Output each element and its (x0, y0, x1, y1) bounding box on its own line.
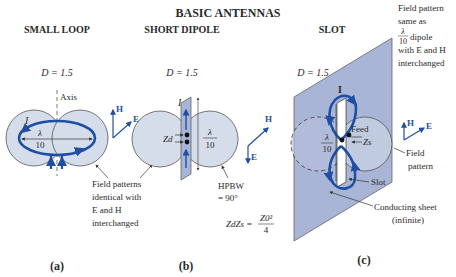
note-fraction-numerator: λ (400, 27, 405, 36)
equation-denominator: 4 (264, 225, 269, 235)
equation-numerator: Z0² (260, 213, 273, 223)
panel-slot: SLOT D = 1.5 I Feed Zs λ 10 Field patter… (291, 3, 446, 267)
field-pattern-label: Field (406, 148, 425, 158)
size-fraction-denominator: 10 (323, 144, 333, 154)
current-label: I (338, 84, 342, 95)
panel-caption: (c) (357, 253, 370, 267)
panel-caption: (a) (50, 259, 64, 273)
note-line: E and H (92, 205, 122, 215)
size-fraction-denominator: 10 (36, 140, 46, 150)
current-arrow (329, 175, 330, 180)
diagram-title: BASIC ANTENNAS (175, 6, 280, 20)
leader-line (222, 166, 228, 178)
leader-line (140, 165, 152, 178)
impedance-label: Zs (363, 137, 372, 147)
current-label: I (177, 97, 182, 108)
feed-terminal (340, 138, 345, 143)
panel-caption: (b) (179, 259, 194, 273)
directivity-label: D = 1.5 (40, 67, 72, 78)
note-line: dipole (410, 32, 433, 42)
directivity-label: D = 1.5 (296, 67, 328, 78)
field-pattern-label: pattern (408, 161, 433, 171)
note-line: same as (398, 16, 427, 26)
feed-label: Feed (351, 124, 369, 134)
axis-label: Axis (60, 92, 78, 102)
panel-small-loop: SMALL LOOP D = 1.5 Axis I λ 10 H E Field… (6, 24, 152, 273)
panel-short-dipole: SHORT DIPOLE D = 1.5 Zd I λ 10 H E HPBW … (132, 24, 274, 273)
feed-terminal (185, 133, 190, 138)
current-label: I (24, 115, 29, 126)
leader-line (394, 148, 405, 153)
panel-heading: SHORT DIPOLE (144, 24, 220, 35)
note-line: Field pattern (398, 3, 444, 13)
field-pattern-lobe-right (52, 110, 108, 166)
panel-heading: SLOT (319, 24, 346, 35)
field-pattern-lobe-left (132, 111, 188, 167)
size-fraction-numerator: λ (207, 127, 212, 137)
equation-lhs: ZdZs = (226, 219, 252, 229)
note-line: with E and H (398, 45, 446, 55)
e-field-arrow-icon (404, 128, 424, 140)
size-fraction-numerator: λ (37, 128, 42, 138)
h-field-label: H (116, 104, 123, 114)
e-field-arrow-icon (113, 122, 131, 138)
note-line: identical with (92, 192, 142, 202)
impedance-label: Zd (163, 134, 173, 144)
slot-label: Slot (371, 177, 386, 187)
size-fraction-numerator: λ (324, 132, 329, 142)
current-arrow (354, 163, 355, 168)
current-arrow (329, 118, 330, 124)
note-line: interchanged (92, 218, 139, 228)
note-line: interchanged (398, 58, 445, 68)
size-fraction-denominator: 10 (206, 140, 216, 150)
e-field-label: E (426, 121, 432, 131)
h-field-label: H (407, 118, 414, 128)
leader-line (96, 165, 108, 178)
slot-aperture (337, 98, 346, 187)
panel-heading: SMALL LOOP (24, 24, 90, 35)
note-line: Field patterns (92, 179, 142, 189)
directivity-label: D = 1.5 (165, 67, 197, 78)
basic-antennas-diagram: BASIC ANTENNAS SMALL LOOP D = 1.5 Axis I… (0, 0, 456, 277)
hpbw-line: HPBW (218, 181, 245, 191)
e-field-label: E (251, 152, 257, 162)
hpbw-line: = 90° (218, 193, 238, 203)
sheet-label: (infinite) (392, 215, 424, 225)
h-field-label: H (265, 114, 272, 124)
sheet-label: Conducting sheet (374, 202, 437, 212)
h-field-arrow-icon (248, 128, 268, 146)
feed-terminal (185, 140, 190, 145)
